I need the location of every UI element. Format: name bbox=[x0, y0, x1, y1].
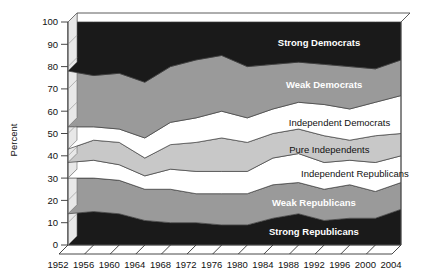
y-tick-label: 80 bbox=[47, 61, 58, 72]
y-tick-label: 10 bbox=[47, 217, 58, 228]
x-tick-label: 1992 bbox=[304, 259, 325, 270]
x-tick-label: 1980 bbox=[227, 259, 248, 270]
y-tick-label: 50 bbox=[47, 128, 58, 139]
x-tick bbox=[161, 245, 170, 254]
x-tick bbox=[392, 245, 401, 254]
y-tick-label: 30 bbox=[47, 173, 58, 184]
band-label-pure-independents: Pure Independents bbox=[289, 144, 370, 155]
y-tick-label: 70 bbox=[47, 83, 58, 94]
x-tick-label: 1964 bbox=[124, 259, 145, 270]
y-tick-label: 100 bbox=[42, 16, 58, 27]
band-label-independent-democrats: Independent Democrats bbox=[289, 117, 391, 128]
band-label-independent-republicans: Independent Republicans bbox=[301, 168, 409, 179]
x-tick bbox=[110, 245, 119, 254]
x-axis: 1952195619601964196819721976198019841988… bbox=[47, 245, 401, 270]
x-tick bbox=[59, 245, 68, 254]
x-tick-label: 1960 bbox=[99, 259, 120, 270]
x-tick bbox=[187, 245, 196, 254]
y-axis-title: Percent bbox=[8, 123, 19, 156]
x-tick-label: 1996 bbox=[329, 259, 350, 270]
x-tick bbox=[136, 245, 145, 254]
x-tick-label: 1972 bbox=[176, 259, 197, 270]
band-label-strong-democrats: Strong Democrats bbox=[278, 37, 360, 48]
band-label-weak-democrats: Weak Democrats bbox=[286, 79, 362, 90]
x-tick-label: 2004 bbox=[380, 259, 401, 270]
x-tick bbox=[341, 245, 350, 254]
y-tick-label: 20 bbox=[47, 195, 58, 206]
x-tick bbox=[315, 245, 324, 254]
band-label-weak-republicans: Weak Republicans bbox=[272, 197, 356, 208]
x-tick-label: 1968 bbox=[150, 259, 171, 270]
y-tick-label: 0 bbox=[53, 239, 58, 250]
x-tick bbox=[290, 245, 299, 254]
x-tick-label: 1988 bbox=[278, 259, 299, 270]
x-tick bbox=[238, 245, 247, 254]
x-tick-label: 1976 bbox=[201, 259, 222, 270]
x-tick bbox=[366, 245, 375, 254]
y-tick-label: 40 bbox=[47, 150, 58, 161]
x-tick bbox=[213, 245, 222, 254]
x-tick bbox=[264, 245, 273, 254]
x-tick-label: 1952 bbox=[47, 259, 68, 270]
x-tick bbox=[85, 245, 94, 254]
x-tick-label: 1956 bbox=[73, 259, 94, 270]
y-tick-label: 90 bbox=[47, 39, 58, 50]
x-tick-label: 2000 bbox=[355, 259, 376, 270]
x-tick-label: 1984 bbox=[252, 259, 273, 270]
band-label-strong-republicans: Strong Republicans bbox=[269, 226, 359, 237]
chart-container: 0102030405060708090100 19521956196019641… bbox=[0, 0, 428, 280]
stacked-area-chart: 0102030405060708090100 19521956196019641… bbox=[0, 0, 428, 280]
y-tick-label: 60 bbox=[47, 106, 58, 117]
